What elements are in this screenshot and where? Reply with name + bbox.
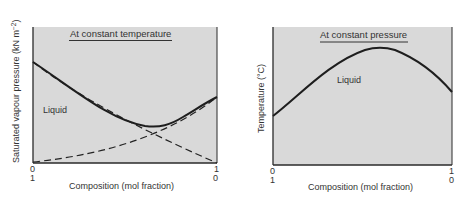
left-tick-bottom-left: 1 xyxy=(30,173,35,183)
left-plot-area xyxy=(33,27,217,163)
left-title: At constant temperature xyxy=(70,28,171,39)
figure: At constant temperature Liquid 0 1 1 0 C… xyxy=(0,0,466,202)
right-y-label: Temperature (°C) xyxy=(256,64,266,133)
left-tick-bottom-right: 0 xyxy=(213,173,218,183)
right-tick-bottom-right: 0 xyxy=(449,175,454,185)
right-x-label: Composition (mol fraction) xyxy=(308,182,413,192)
left-x-label: Composition (mol fraction) xyxy=(69,181,174,191)
left-y-label: Saturated vapour pressure (kN m−2) xyxy=(10,20,21,163)
right-plot-area xyxy=(273,27,452,165)
right-title: At constant pressure xyxy=(320,29,407,40)
right-tick-bottom-left: 1 xyxy=(270,175,275,185)
left-chart: At constant temperature Liquid 0 1 1 0 C… xyxy=(10,20,219,191)
left-liquid-label: Liquid xyxy=(43,105,67,115)
right-liquid-label: Liquid xyxy=(337,75,361,85)
right-chart: At constant pressure Liquid 0 1 1 0 Comp… xyxy=(256,27,454,192)
